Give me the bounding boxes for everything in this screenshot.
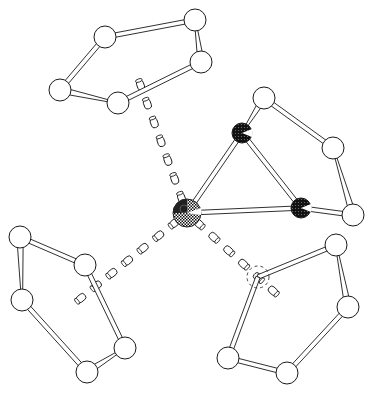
atom-A2 (184, 9, 206, 31)
atom-A1 (94, 26, 116, 48)
dashed-bond-bottom-right-centroid (193, 218, 280, 298)
molecule-diagram (0, 0, 375, 396)
atom-C2 (74, 254, 96, 276)
atom-C5 (11, 289, 33, 311)
dash-segment (136, 242, 149, 255)
bond-M1-D2 (187, 206, 301, 215)
dashed-bond-top-centroid (135, 78, 187, 204)
atom-M1 (173, 199, 201, 227)
atom-D2 (291, 198, 312, 218)
dash-segment (142, 97, 153, 110)
dash-segment (222, 245, 235, 258)
bond-E5-E1 (226, 276, 260, 359)
bond-A3-A4 (117, 60, 202, 105)
dash-segment (169, 172, 180, 185)
bond-D1-D2 (240, 132, 302, 210)
bonds (17, 18, 356, 375)
atom-E2 (325, 234, 347, 256)
dash-segment (237, 258, 250, 271)
atom-A4 (107, 92, 129, 114)
bond-C2-C3 (83, 264, 127, 349)
atom-B1 (253, 87, 275, 109)
atom-E3 (337, 296, 359, 318)
dash-segment (74, 292, 87, 305)
atom-C1 (9, 226, 31, 248)
dash-segment (105, 267, 118, 280)
atom-C4 (76, 361, 98, 383)
dashed-bonds (74, 78, 281, 305)
dash-segment (152, 230, 165, 243)
atom-E4 (276, 362, 298, 384)
bond-E1-E2 (257, 243, 337, 279)
dash-segment (149, 115, 160, 128)
dash-segment (162, 153, 173, 166)
atom-A5 (49, 79, 71, 101)
dash-segment (267, 285, 280, 298)
atoms (9, 9, 364, 384)
bond-C4-C5 (20, 299, 88, 374)
atom-E5 (217, 347, 239, 369)
atom-B2 (322, 137, 344, 159)
dash-segment (208, 231, 221, 244)
atom-D1 (232, 123, 253, 143)
bond-E3-E4 (285, 306, 349, 375)
dash-segment (155, 134, 166, 147)
atom-C3 (114, 337, 136, 359)
dash-segment (120, 255, 133, 268)
atom-A3 (190, 51, 212, 73)
atom-B3 (342, 204, 364, 226)
bond-A1-A2 (105, 18, 196, 39)
